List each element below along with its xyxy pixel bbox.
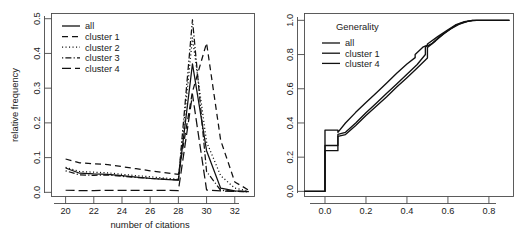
chart-panel-right: 0.00.20.40.60.81.0 0.00.20.40.60.8 Gener… — [264, 0, 528, 239]
right-y-axis: 0.00.20.40.60.81.0 — [285, 14, 304, 198]
right-x-tick-label: 0.4 — [401, 206, 414, 216]
left-plot-frame — [52, 14, 255, 197]
left-x-tick-label: 30 — [201, 206, 211, 216]
left-x-tick-label: 22 — [89, 206, 99, 216]
right-x-tick-label: 0.2 — [360, 206, 373, 216]
left-y-axis-title: relative frequency — [9, 68, 20, 142]
right-plot-frame — [305, 14, 514, 197]
figure-container: 0.00.10.20.30.40.5 20222426283032 number… — [0, 0, 528, 239]
right-series-line — [305, 20, 510, 191]
left-legend-label: cluster 2 — [85, 43, 120, 53]
left-legend-label: cluster 3 — [85, 53, 120, 63]
left-y-tick-label: 0.5 — [32, 12, 42, 25]
right-x-tick-label: 0.8 — [483, 206, 496, 216]
left-y-tick-label: 0.3 — [32, 82, 42, 95]
left-chart-svg: 0.00.10.20.30.40.5 20222426283032 number… — [0, 0, 264, 239]
right-x-tick-label: 0.6 — [442, 206, 455, 216]
right-y-tick-label: 1.0 — [285, 14, 295, 27]
right-y-tick-label: 0.2 — [285, 151, 295, 164]
right-legend-label: cluster 4 — [345, 59, 380, 69]
left-x-axis-title: number of citations — [110, 219, 190, 230]
chart-panel-left: 0.00.10.20.30.40.5 20222426283032 number… — [0, 0, 264, 239]
left-y-axis: 0.00.10.20.30.40.5 — [32, 12, 51, 198]
right-y-tick-label: 0.0 — [285, 185, 295, 198]
right-x-axis: 0.00.20.40.60.8 — [310, 197, 496, 217]
left-y-tick-label: 0.0 — [32, 186, 42, 199]
left-legend: allcluster 1cluster 2cluster 3cluster 4 — [62, 21, 120, 73]
left-x-tick-label: 24 — [117, 206, 127, 216]
right-y-tick-label: 0.8 — [285, 48, 295, 61]
left-x-tick-label: 26 — [145, 206, 155, 216]
right-series-group — [305, 20, 510, 191]
left-x-tick-label: 20 — [60, 206, 70, 216]
right-series-line — [305, 20, 510, 191]
left-series-line — [66, 94, 249, 191]
left-x-tick-label: 32 — [230, 206, 240, 216]
left-x-tick-label: 28 — [173, 206, 183, 216]
right-legend-label: all — [345, 38, 354, 48]
left-y-tick-label: 0.1 — [32, 151, 42, 164]
left-legend-label: cluster 1 — [85, 32, 120, 42]
left-legend-label: all — [85, 21, 94, 31]
right-y-tick-label: 0.4 — [285, 117, 295, 130]
right-legend-label: cluster 1 — [345, 49, 380, 59]
right-legend: Generalityallcluster 1cluster 4 — [322, 21, 380, 69]
right-y-tick-label: 0.6 — [285, 82, 295, 95]
right-chart-svg: 0.00.20.40.60.81.0 0.00.20.40.60.8 Gener… — [264, 0, 528, 239]
right-legend-title: Generality — [336, 21, 379, 32]
left-y-tick-label: 0.2 — [32, 116, 42, 129]
right-x-tick-label: 0.0 — [319, 206, 332, 216]
right-series-line — [305, 20, 510, 191]
left-legend-label: cluster 4 — [85, 64, 120, 74]
left-y-tick-label: 0.4 — [32, 47, 42, 60]
left-x-axis: 20222426283032 — [54, 197, 240, 217]
